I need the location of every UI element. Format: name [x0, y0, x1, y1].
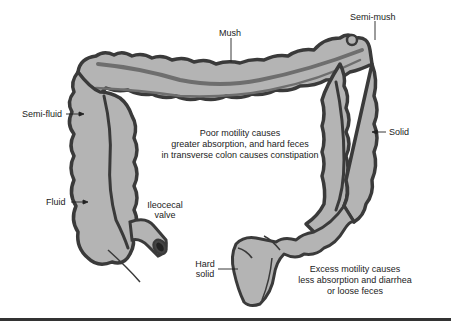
bottom-divider	[0, 318, 451, 321]
label-fluid: Fluid	[46, 197, 66, 207]
label-hard-solid: Hard solid	[192, 259, 218, 279]
label-mush: Mush	[219, 28, 241, 38]
colon-diagram: Mush Semi-mush Semi-fluid Solid Fluid Il…	[0, 0, 451, 323]
label-ileocecal-valve: Ileocecal valve	[142, 200, 188, 220]
note-excess-motility: Excess motility causes less absorption a…	[290, 264, 420, 297]
label-semi-fluid: Semi-fluid	[22, 109, 62, 119]
note-poor-motility: Poor motility causes greater absorption,…	[150, 128, 330, 161]
label-semi-mush: Semi-mush	[350, 12, 396, 22]
label-solid: Solid	[389, 127, 409, 137]
